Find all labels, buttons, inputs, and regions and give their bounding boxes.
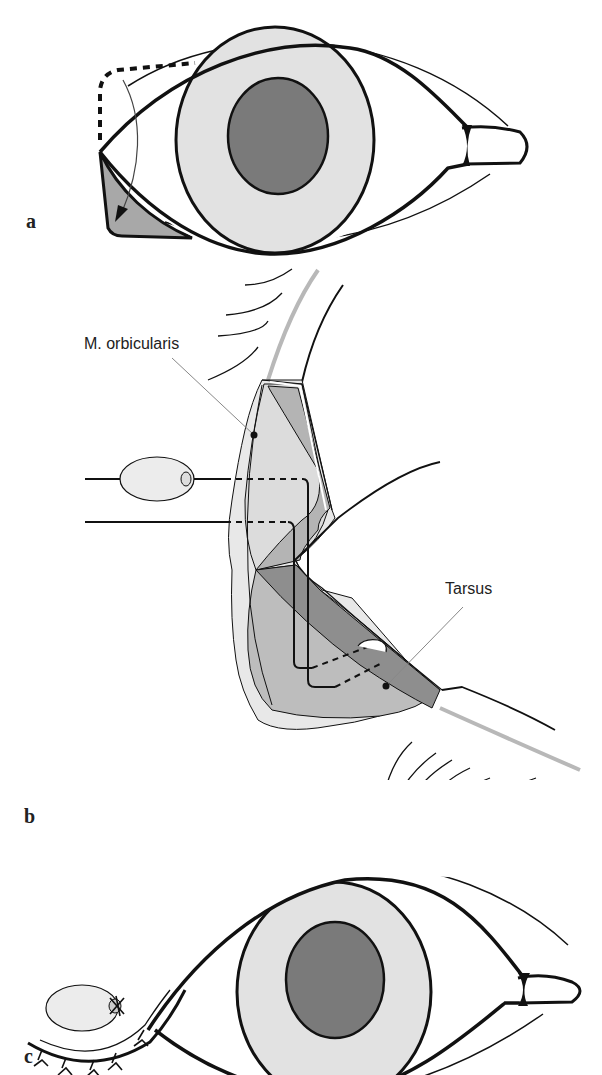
upper-skin-gray	[268, 270, 318, 380]
caruncle	[462, 127, 527, 164]
panel-label-a: a	[26, 210, 36, 233]
callout-orbicularis: M. orbicularis	[84, 335, 179, 353]
panel-c-eye	[0, 780, 602, 1075]
caruncle-c	[518, 976, 580, 1003]
orbicularis-dot	[251, 432, 258, 439]
tarsus-dot	[383, 683, 390, 690]
lower-skin-gray	[440, 708, 580, 770]
callout-tarsus: Tarsus	[445, 580, 492, 598]
bolster-c	[46, 985, 118, 1031]
panel-label-c: c	[24, 1045, 33, 1068]
pupil	[228, 78, 328, 194]
panel-label-b: b	[24, 805, 35, 828]
upper-lashes	[208, 269, 292, 380]
orbicularis-leader	[172, 358, 254, 435]
eyelid-surgery-diagram	[0, 0, 602, 1075]
upper-conjunctiva	[302, 285, 343, 382]
pupil-c	[286, 922, 384, 1038]
lower-lid-skin	[442, 687, 555, 730]
panel-a-eye	[100, 27, 527, 254]
tarsus-leader	[387, 607, 463, 685]
bolster-hole	[181, 472, 191, 486]
